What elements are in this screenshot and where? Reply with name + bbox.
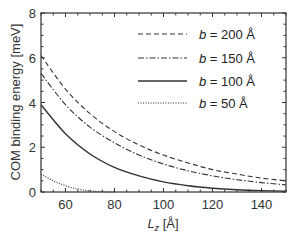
legend: b = 200 Åb = 150 Åb = 100 Åb = 50 Å — [138, 27, 255, 111]
legend-entry: b = 200 Å — [199, 27, 255, 42]
x-tick-label: 100 — [153, 197, 175, 212]
curve-100 — [41, 105, 286, 191]
y-tick-label: 0 — [29, 185, 36, 200]
legend-entry: b = 150 Å — [199, 51, 255, 66]
y-axis-label: COM binding energy [meV] — [8, 24, 23, 181]
curve-150 — [41, 73, 286, 184]
y-tick-label: 8 — [29, 6, 36, 21]
x-tick-label: 140 — [251, 197, 273, 212]
y-tick-label: 4 — [29, 96, 36, 111]
legend-entry: b = 100 Å — [199, 74, 255, 89]
x-axis-label: Lz [Å] — [147, 216, 178, 233]
binding-energy-chart: 608010012014002468 b = 200 Åb = 150 Åb =… — [0, 0, 299, 236]
x-tick-label: 60 — [58, 197, 72, 212]
curve-50 — [41, 174, 115, 192]
x-tick-label: 80 — [107, 197, 121, 212]
y-tick-label: 6 — [29, 51, 36, 66]
legend-entry: b = 50 Å — [199, 96, 248, 111]
y-tick-label: 2 — [29, 140, 36, 155]
x-tick-label: 120 — [202, 197, 224, 212]
